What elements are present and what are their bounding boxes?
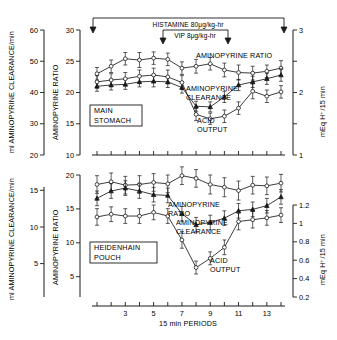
data-point xyxy=(166,57,170,61)
ytick-acid-3: 3 xyxy=(299,26,303,35)
data-point xyxy=(138,74,142,78)
data-point xyxy=(265,76,269,80)
figure-container: 60 50 40 30 20 30 25 20 15 10 xyxy=(0,0,337,340)
ytick-ratio-b-5: 5 xyxy=(70,272,74,281)
data-point xyxy=(109,78,113,82)
data-point xyxy=(123,214,127,218)
data-point xyxy=(166,193,170,197)
data-point xyxy=(237,71,241,75)
axis-acid-bottom: 1.2 1 0.8 0.6 0.4 0.2 xyxy=(293,201,309,302)
label-bot-ratio-l1: AMINOPYRINE xyxy=(168,200,220,209)
data-point xyxy=(137,189,141,193)
data-point xyxy=(265,216,269,220)
data-point xyxy=(265,94,269,98)
data-point xyxy=(180,66,184,70)
label-histamine: HISTAMINE 80μg/kg-hr xyxy=(153,21,225,29)
axis-clearance-top: 60 50 40 30 20 xyxy=(30,26,44,160)
data-point xyxy=(95,183,99,187)
data-point xyxy=(222,114,226,118)
data-point xyxy=(208,104,212,108)
xaxis-bottom-ticklabels: 35791113 xyxy=(123,309,271,318)
data-point xyxy=(250,207,254,211)
axis-acid-top: 3 2 1 xyxy=(293,26,303,160)
data-point xyxy=(180,174,184,178)
main-stomach-line1: MAIN xyxy=(94,106,113,115)
label-top-clearance-l1: AMINOPYRINE xyxy=(186,84,238,93)
xtick-label: 11 xyxy=(235,309,243,318)
xtick-label: 3 xyxy=(123,309,127,318)
data-point xyxy=(166,75,170,79)
data-point xyxy=(208,62,212,66)
data-point xyxy=(251,183,255,187)
xtick-label: 9 xyxy=(208,309,212,318)
data-point xyxy=(109,180,113,184)
label-top-acid-l1: ACID xyxy=(197,116,215,125)
xaxis-top xyxy=(92,151,285,155)
data-point xyxy=(222,68,226,72)
data-point xyxy=(95,196,99,200)
series-bottom-ratio xyxy=(95,167,283,200)
label-top-aminopyrine-ratio: AMINOPYRINE RATIO xyxy=(196,51,273,60)
xtick-label: 13 xyxy=(263,309,271,318)
ytick-clearance-60: 60 xyxy=(30,26,38,35)
data-point xyxy=(109,212,113,216)
data-point xyxy=(152,181,156,185)
data-point xyxy=(237,189,241,193)
data-point xyxy=(237,106,241,110)
data-point xyxy=(109,189,113,193)
data-point xyxy=(251,89,255,93)
label-bot-acid-l2: OUTPUT xyxy=(210,265,241,274)
data-point xyxy=(152,56,156,60)
label-bot-clearance-l1: AMINOPYRINE xyxy=(176,218,228,227)
label-vip: VIP 8μg/kg-hr xyxy=(174,32,216,40)
label-bot-ratio-l2: RATIO xyxy=(168,209,190,218)
axis-title-clearance-bottom: ml AMINOPYRINE CLEARANCE/min xyxy=(7,178,16,300)
ytick-ratio-b-10: 10 xyxy=(66,238,74,247)
data-point xyxy=(279,213,283,217)
xtick-label: 7 xyxy=(180,309,184,318)
data-point xyxy=(180,81,184,85)
data-point xyxy=(265,69,269,73)
data-point xyxy=(279,181,283,185)
data-point xyxy=(194,266,198,270)
data-point xyxy=(279,90,283,94)
ytick-acid-b-06: 0.6 xyxy=(299,256,309,265)
axis-title-clearance-top: ml AMINOPYRINE CLEARANCE/min xyxy=(7,31,16,153)
data-point xyxy=(194,64,198,68)
data-point xyxy=(222,185,226,189)
data-point xyxy=(194,176,198,180)
ytick-clearance-20: 20 xyxy=(30,151,38,160)
panel-main-stomach: 60 50 40 30 20 30 25 20 15 10 xyxy=(30,18,303,160)
data-point xyxy=(208,183,212,187)
ytick-ratio-25: 25 xyxy=(66,57,74,66)
axis-ratio-bottom: 20 15 10 5 xyxy=(66,171,80,298)
panel-heidenhain-pouch: 15 10 5 20 15 10 5 1.2 1 xyxy=(30,167,310,318)
data-point xyxy=(166,182,170,186)
ytick-ratio-10: 10 xyxy=(66,151,74,160)
heidenhain-line2: POUCH xyxy=(94,253,121,262)
axis-title-ratio-bottom: AMINOPYRINE RATIO xyxy=(51,209,60,285)
data-point xyxy=(95,215,99,219)
data-point xyxy=(180,238,184,242)
data-point xyxy=(279,195,283,199)
xaxis-title: 15 min PERIODS xyxy=(159,319,217,328)
ytick-clearance-b-15: 15 xyxy=(30,186,38,195)
ytick-acid-b-10: 1 xyxy=(299,219,303,228)
data-point xyxy=(95,80,99,84)
label-top-clearance-l2: CLEARANCE xyxy=(186,93,231,102)
ytick-ratio-b-20: 20 xyxy=(66,171,74,180)
ytick-acid-b-08: 0.8 xyxy=(299,237,309,246)
axis-title-acid-bottom: mEq H⁺/15 min xyxy=(318,234,327,285)
xtick-label: 5 xyxy=(152,309,156,318)
ytick-ratio-15: 15 xyxy=(66,119,74,128)
ytick-clearance-b-5: 5 xyxy=(34,259,38,268)
data-point xyxy=(151,192,155,196)
ytick-acid-b-12: 1.2 xyxy=(299,201,309,210)
main-stomach-line2: STOMACH xyxy=(94,116,131,125)
data-point xyxy=(222,245,226,249)
ytick-ratio-b-15: 15 xyxy=(66,204,74,213)
heidenhain-line1: HEIDENHAIN xyxy=(94,243,140,252)
axis-clearance-bottom: 15 10 5 xyxy=(30,186,44,297)
data-point xyxy=(251,71,255,75)
xaxis-bottom-ticks xyxy=(97,302,281,306)
